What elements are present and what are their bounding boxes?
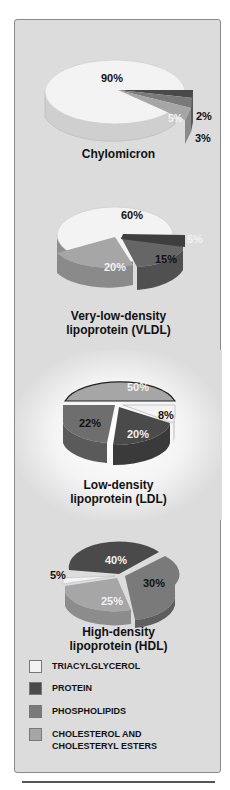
legend-item-cholesterol: CHOLESTEROL AND CHOLESTERYL ESTERS xyxy=(29,728,202,752)
hdl-phospholipids-label: 30% xyxy=(143,577,165,589)
chylomicron-caption: Chylomicron xyxy=(15,147,222,161)
ldl-tg-label: 8% xyxy=(158,409,174,421)
pie-ldl: 50% 22% 20% 8% xyxy=(15,365,222,485)
legend-item-phospholipids: PHOSPHOLIPIDS xyxy=(29,705,202,718)
vldl-protein-label: 5% xyxy=(187,233,203,245)
legend-item-protein: PROTEIN xyxy=(29,682,202,695)
lipoprotein-composition-panel: 90% 2% 3% 5% Chylomicron 60% 5% 15% 20% … xyxy=(14,19,221,773)
vldl-tg-label: 60% xyxy=(121,209,143,221)
chylomicron-cholesterol-label: 5% xyxy=(168,113,182,124)
pie-chylomicron: 90% 2% 3% 5% xyxy=(15,32,222,162)
chylomicron-tg-label: 90% xyxy=(101,72,123,84)
vldl-cholesterol-label: 20% xyxy=(104,261,126,273)
legend-item-triacylglycerol: TRIACYLGLYCEROL xyxy=(29,660,202,673)
triacylglycerol-swatch xyxy=(29,660,42,673)
vldl-pie-graphic xyxy=(15,195,222,315)
cholesterol-swatch xyxy=(29,728,42,741)
ldl-protein-label: 20% xyxy=(127,428,149,440)
hdl-pie-graphic xyxy=(15,530,222,640)
vldl-phospholipids-label: 15% xyxy=(155,253,177,265)
pie-hdl: 40% 30% 25% 5% xyxy=(15,530,222,640)
hdl-protein-label: 40% xyxy=(105,554,127,566)
hdl-caption: High-density lipoprotein (HDL) xyxy=(15,625,222,653)
hdl-cholesterol-label: 25% xyxy=(101,595,123,607)
ldl-pie-graphic xyxy=(15,365,222,485)
ldl-cholesterol-label: 50% xyxy=(127,381,149,393)
bottom-divider xyxy=(22,781,215,783)
phospholipids-swatch xyxy=(29,705,42,718)
chylomicron-pie-graphic xyxy=(15,32,222,152)
chylomicron-protein-label: 2% xyxy=(196,110,212,122)
protein-swatch xyxy=(29,682,42,695)
vldl-caption: Very-low-density lipoprotein (VLDL) xyxy=(15,309,222,337)
ldl-caption: Low-density lipoprotein (LDL) xyxy=(15,478,222,506)
chylomicron-phospholipids-label: 3% xyxy=(195,132,211,144)
hdl-tg-label: 5% xyxy=(50,569,66,581)
ldl-phospholipids-label: 22% xyxy=(79,417,101,429)
pie-vldl: 60% 5% 15% 20% xyxy=(15,195,222,315)
